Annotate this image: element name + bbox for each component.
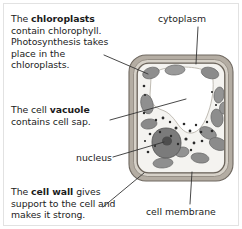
note-cell-wall-term: cell wall	[31, 186, 73, 197]
plant-cell-figure: The chloroplasts contain chlorophyll. Ph…	[0, 0, 242, 229]
note-vacuole: The cell vacuole contains cell sap.	[11, 104, 117, 127]
note-cell-wall: The cell wall gives support to the cell …	[11, 186, 123, 221]
note-vacuole-lead: The cell	[11, 104, 50, 115]
note-chloroplasts-lead: The	[11, 13, 31, 24]
nucleus	[152, 128, 181, 158]
note-chloroplasts-term: chloroplasts	[31, 13, 95, 24]
note-vacuole-rest: contains cell sap.	[11, 116, 91, 127]
label-nucleus: nucleus	[76, 152, 112, 164]
label-cell-membrane: cell membrane	[146, 206, 216, 218]
note-vacuole-term: vacuole	[50, 104, 90, 115]
note-chloroplasts-rest: contain chlorophyll. Photosynthesis take…	[11, 25, 108, 71]
note-chloroplasts: The chloroplasts contain chlorophyll. Ph…	[11, 13, 117, 71]
note-cell-wall-lead: The	[11, 186, 31, 197]
nucleolus	[162, 137, 172, 146]
label-cytoplasm: cytoplasm	[158, 13, 206, 25]
